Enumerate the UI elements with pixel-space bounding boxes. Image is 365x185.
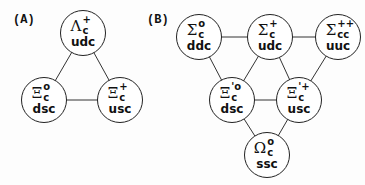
charge: o bbox=[198, 19, 205, 29]
node-sigma-c-plus: Σ+c udc bbox=[247, 14, 293, 60]
particle-symbol: Ξ bbox=[32, 83, 43, 103]
quark-content: dsc bbox=[210, 102, 254, 116]
particle-symbol: Σ bbox=[326, 20, 337, 40]
particle-symbol: Ξ bbox=[108, 83, 119, 103]
charge: 'o bbox=[231, 82, 241, 92]
particle-symbol: Σ bbox=[187, 20, 198, 40]
quark-content: udc bbox=[61, 35, 105, 49]
quark-content: uuc bbox=[316, 39, 360, 53]
node-xi-prime-c-plus: Ξ'+c usc bbox=[276, 77, 322, 123]
quark-content: usc bbox=[98, 102, 142, 116]
node-xi-prime-c-zero: Ξ'oc dsc bbox=[209, 77, 255, 123]
node-lambda-c-plus: Λ+c udc bbox=[60, 10, 106, 56]
node-omega-c-zero: Ωoc ssc bbox=[244, 132, 290, 178]
quark-content: udc bbox=[248, 39, 292, 53]
particle-symbol: Σ bbox=[258, 20, 269, 40]
quark-content: usc bbox=[277, 102, 321, 116]
particle-symbol: Ω bbox=[254, 138, 266, 158]
quark-content: ssc bbox=[245, 157, 289, 171]
node-sigma-c-zero: Σoc ddc bbox=[176, 14, 222, 60]
charge: + bbox=[269, 19, 277, 29]
particle-symbol: Λ bbox=[71, 16, 82, 36]
charge: + bbox=[82, 15, 90, 25]
node-sigma-c-plusplus: Σ++cc uuc bbox=[315, 14, 361, 60]
particle-symbol: Ξ bbox=[287, 83, 298, 103]
charge: '+ bbox=[298, 82, 309, 92]
node-xi-c-zero: Ξoc dsc bbox=[21, 77, 67, 123]
baryon-multiplet-diagram: (A) Λ+c udc Ξoc dsc Ξ+c usc (B) Σoc ddc … bbox=[0, 0, 365, 185]
panel-label-a: (A) bbox=[13, 13, 35, 27]
quark-content: ddc bbox=[177, 39, 221, 53]
charge: ++ bbox=[337, 19, 354, 29]
node-xi-c-plus: Ξ+c usc bbox=[97, 77, 143, 123]
quark-content: dsc bbox=[22, 102, 66, 116]
charge: o bbox=[267, 137, 274, 147]
panel-label-b: (B) bbox=[147, 13, 169, 27]
particle-symbol: Ξ bbox=[220, 83, 231, 103]
charge: o bbox=[43, 82, 50, 92]
charge: + bbox=[119, 82, 127, 92]
